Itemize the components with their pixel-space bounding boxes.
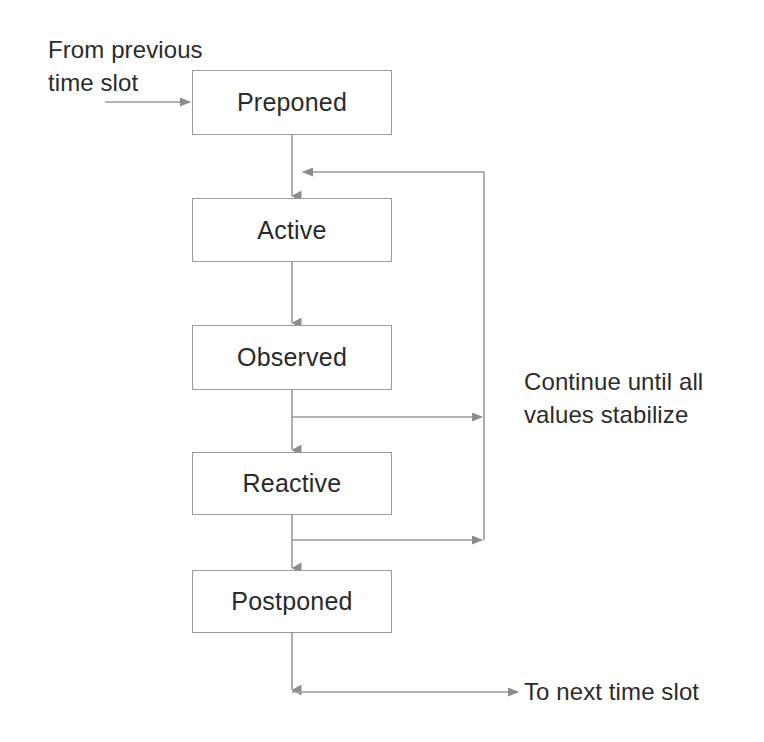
state-label-postponed: Postponed xyxy=(231,587,352,616)
annotation-from-previous-time-slot: From previous time slot xyxy=(48,33,258,99)
annotation-to-next-time-slot: To next time slot xyxy=(524,675,764,708)
state-label-observed: Observed xyxy=(237,343,347,372)
state-box-postponed[interactable]: Postponed xyxy=(192,570,392,633)
diagram-canvas: Preponed Active Observed Reactive Postpo… xyxy=(0,0,764,742)
state-box-active[interactable]: Active xyxy=(192,198,392,262)
state-label-reactive: Reactive xyxy=(243,469,342,498)
annotation-continue-until-values-stabilize: Continue until all values stabilize xyxy=(524,365,764,431)
state-box-observed[interactable]: Observed xyxy=(192,325,392,390)
state-box-reactive[interactable]: Reactive xyxy=(192,452,392,515)
state-label-active: Active xyxy=(257,216,326,245)
